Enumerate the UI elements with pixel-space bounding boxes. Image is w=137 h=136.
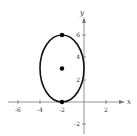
center-point: [60, 66, 64, 70]
x-tick-label: -6: [15, 106, 21, 113]
x-tick-label: -4: [37, 106, 43, 113]
y-tick-label: 4: [76, 53, 80, 60]
bottom-vertex-point: [60, 100, 64, 104]
top-vertex-point: [60, 33, 64, 37]
x-tick-label: -2: [59, 106, 65, 113]
x-axis-label: x: [127, 98, 131, 106]
y-tick-label: -2: [74, 120, 80, 127]
y-tick-label: 2: [76, 76, 80, 83]
y-axis-label: y: [79, 9, 85, 17]
ellipse-graph: -6 -4 -2 2 6 4 2 -2 x y: [0, 0, 137, 136]
y-tick-label: 6: [76, 31, 80, 38]
x-tick-label: 2: [104, 106, 108, 113]
